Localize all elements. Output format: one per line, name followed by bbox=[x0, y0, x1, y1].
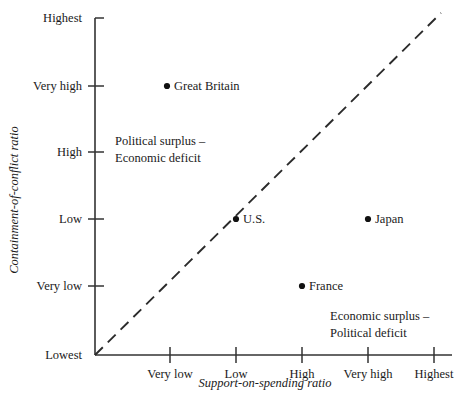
annotation-political-surplus-line2: Economic deficit bbox=[115, 150, 205, 167]
data-label-japan: Japan bbox=[375, 213, 403, 226]
y-axis-title: Containment-of-conflict ratio bbox=[8, 105, 21, 295]
data-label-us: U.S. bbox=[243, 213, 265, 226]
annotation-economic-surplus-line1: Economic surplus – bbox=[330, 308, 429, 325]
annotation-economic-surplus: Economic surplus – Political deficit bbox=[330, 308, 429, 342]
x-tick-label-very-low: Very low bbox=[147, 368, 192, 381]
data-label-great-britain: Great Britain bbox=[174, 80, 240, 93]
scatter-chart: Highest Very high High Low Very low Lowe… bbox=[0, 0, 467, 400]
data-point-japan bbox=[365, 216, 371, 222]
data-point-us bbox=[233, 216, 239, 222]
annotation-political-surplus: Political surplus – Economic deficit bbox=[115, 133, 205, 167]
data-label-france: France bbox=[309, 280, 343, 293]
y-tick-label-very-high: Very high bbox=[0, 80, 82, 93]
data-point-france bbox=[299, 283, 305, 289]
y-tick-label-highest: Highest bbox=[0, 12, 82, 25]
x-tick-label-very-high: Very high bbox=[344, 368, 393, 381]
y-tick-label-lowest: Lowest bbox=[0, 349, 82, 362]
x-axis-title: Support-on-spending ratio bbox=[199, 377, 332, 390]
x-tick-label-highest: Highest bbox=[415, 368, 454, 381]
parity-reference-line bbox=[95, 13, 441, 355]
annotation-economic-surplus-line2: Political deficit bbox=[330, 325, 429, 342]
annotation-political-surplus-line1: Political surplus – bbox=[115, 133, 205, 150]
data-point-great-britain bbox=[164, 83, 170, 89]
